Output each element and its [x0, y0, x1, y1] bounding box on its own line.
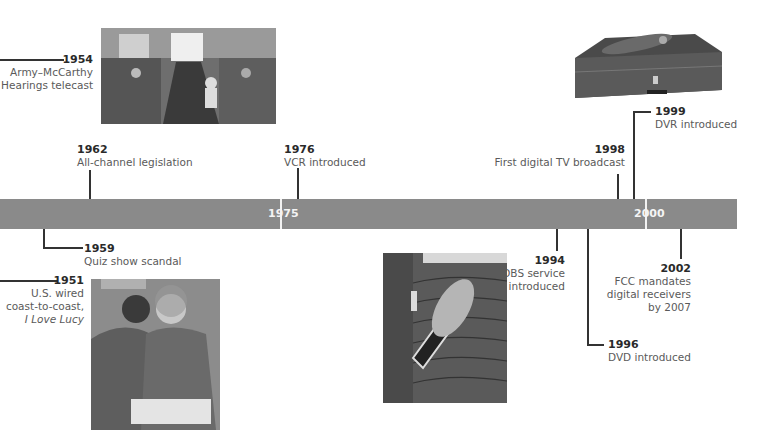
- event-1954: 1954 Army–McCarthy Hearings telecast: [0, 53, 93, 92]
- event-text-title: I Love Lucy: [25, 313, 84, 325]
- event-year: 2002: [600, 262, 691, 275]
- event-1976: 1976 VCR introduced: [284, 143, 366, 169]
- photo-dvr: [575, 32, 722, 104]
- event-text: DBS service: [500, 267, 565, 280]
- event-text: digital receivers: [600, 288, 691, 301]
- connector-1998: [617, 174, 619, 199]
- event-text: introduced: [500, 280, 565, 293]
- connector-1999: [633, 111, 635, 199]
- event-1994: 1994 DBS service introduced: [500, 254, 565, 293]
- event-year: 1954: [0, 53, 93, 66]
- event-text: coast-to-coast,: [0, 300, 84, 313]
- marker-label-1975: 1975: [268, 207, 299, 220]
- event-1999: 1999 DVR introduced: [655, 105, 737, 131]
- event-1951: 1951 U.S. wired coast-to-coast, I Love L…: [0, 274, 84, 326]
- event-year: 1959: [84, 242, 182, 255]
- connector-1962: [89, 170, 91, 199]
- connector-1994: [556, 229, 558, 251]
- connector-1976: [297, 168, 299, 199]
- event-1998: 1998 First digital TV broadcast: [490, 143, 625, 169]
- photo-mccarthy-hearings: [101, 28, 276, 124]
- event-year: 1999: [655, 105, 737, 118]
- event-year: 1996: [608, 338, 691, 351]
- event-text: First digital TV broadcast: [490, 156, 625, 169]
- photo-satellite-dish: [383, 253, 507, 403]
- connector-1996: [587, 229, 589, 346]
- event-text: Army–McCarthy: [0, 66, 93, 79]
- event-text: Quiz show scandal: [84, 255, 182, 268]
- connector-1996-h: [587, 344, 604, 346]
- event-text: FCC mandates: [600, 275, 691, 288]
- event-1959: 1959 Quiz show scandal: [84, 242, 182, 268]
- photo-i-love-lucy: [91, 279, 220, 430]
- event-year: 1998: [490, 143, 625, 156]
- event-year: 1951: [0, 274, 84, 287]
- connector-1959: [43, 229, 45, 249]
- event-year: 1976: [284, 143, 366, 156]
- connector-1999-h: [633, 111, 651, 113]
- event-text: by 2007: [600, 301, 691, 314]
- event-text: All-channel legislation: [77, 156, 193, 169]
- event-1996: 1996 DVD introduced: [608, 338, 691, 364]
- event-year: 1962: [77, 143, 193, 156]
- event-text: Hearings telecast: [0, 79, 93, 92]
- marker-label-2000: 2000: [634, 207, 665, 220]
- event-year: 1994: [500, 254, 565, 267]
- event-text: DVR introduced: [655, 118, 737, 131]
- connector-1959-h: [43, 247, 83, 249]
- connector-2002: [680, 229, 682, 259]
- event-2002: 2002 FCC mandates digital receivers by 2…: [600, 262, 691, 314]
- timeline-bar: [0, 199, 737, 229]
- event-text: DVD introduced: [608, 351, 691, 364]
- event-text: U.S. wired: [0, 287, 84, 300]
- event-1962: 1962 All-channel legislation: [77, 143, 193, 169]
